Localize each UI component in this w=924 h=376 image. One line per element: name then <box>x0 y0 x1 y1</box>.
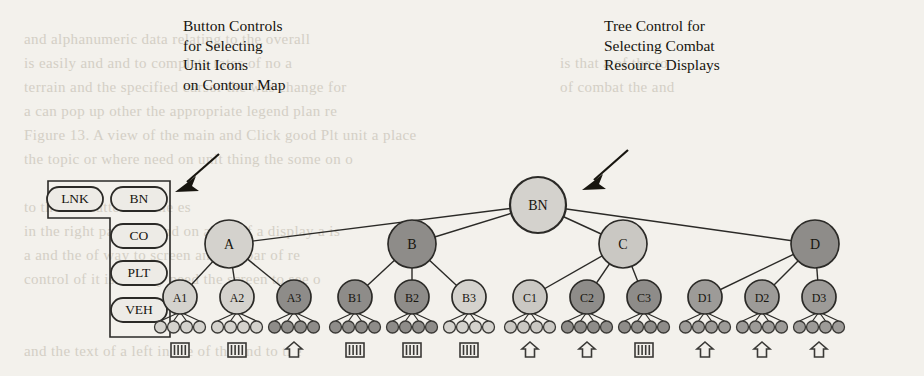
tree-node-d2[interactable]: D2 <box>745 280 779 314</box>
leaf-node[interactable] <box>776 321 788 333</box>
leaf-node[interactable] <box>168 321 180 333</box>
leaf-node[interactable] <box>356 321 368 333</box>
leaf-node[interactable] <box>308 321 320 333</box>
tank-icon[interactable] <box>228 343 246 357</box>
leaf-node[interactable] <box>194 321 206 333</box>
arrow-up-icon[interactable] <box>754 342 770 357</box>
leaf-node[interactable] <box>155 321 167 333</box>
leaf-node[interactable] <box>531 321 543 333</box>
leaf-node[interactable] <box>369 321 381 333</box>
tree-node-c3[interactable]: C3 <box>627 280 661 314</box>
tree-node-bn[interactable]: BN <box>510 177 566 233</box>
tank-icon[interactable] <box>346 343 364 357</box>
tree-node-d3[interactable]: D3 <box>802 280 836 314</box>
leaf-node[interactable] <box>658 321 670 333</box>
arrow-up-icon[interactable] <box>522 342 538 357</box>
unit-button-veh[interactable]: VEH <box>111 298 167 322</box>
leaf-node[interactable] <box>632 321 644 333</box>
node-label: A2 <box>230 291 245 305</box>
leaf-node[interactable] <box>238 321 250 333</box>
tree-node-d[interactable]: D <box>791 220 839 268</box>
leaf-node[interactable] <box>518 321 530 333</box>
leaf-node[interactable] <box>763 321 775 333</box>
leaf-node[interactable] <box>601 321 613 333</box>
leaf-node[interactable] <box>719 321 731 333</box>
leaf-node[interactable] <box>343 321 355 333</box>
leaf-node[interactable] <box>737 321 749 333</box>
leaf-node[interactable] <box>807 321 819 333</box>
tree-node-c2[interactable]: C2 <box>570 280 604 314</box>
arrow-up-icon[interactable] <box>811 342 827 357</box>
leaf-node[interactable] <box>295 321 307 333</box>
leaf-node[interactable] <box>269 321 281 333</box>
node-label: B1 <box>348 291 362 305</box>
leaf-node[interactable] <box>680 321 692 333</box>
leaf-node[interactable] <box>619 321 631 333</box>
tree-node-d1[interactable]: D1 <box>688 280 722 314</box>
node-label: D <box>810 237 820 252</box>
annotation-arrow-right <box>582 150 628 190</box>
arrow-up-icon-shape <box>286 342 302 357</box>
tree-node-a1[interactable]: A1 <box>163 280 197 314</box>
button-label: VEH <box>125 302 153 317</box>
node-label: A <box>224 237 235 252</box>
arrow-up-icon-shape <box>522 342 538 357</box>
leaf-node[interactable] <box>575 321 587 333</box>
leaf-node[interactable] <box>330 321 342 333</box>
leaf-node[interactable] <box>794 321 806 333</box>
node-label: C1 <box>523 291 537 305</box>
leaf-node[interactable] <box>470 321 482 333</box>
leaf-node[interactable] <box>562 321 574 333</box>
node-label: B2 <box>405 291 419 305</box>
leaf-node[interactable] <box>400 321 412 333</box>
leaf-node[interactable] <box>282 321 294 333</box>
leaf-node[interactable] <box>833 321 845 333</box>
arrow-up-icon-shape <box>697 342 713 357</box>
leaf-node[interactable] <box>645 321 657 333</box>
tree-node-c1[interactable]: C1 <box>513 280 547 314</box>
leaf-node[interactable] <box>444 321 456 333</box>
leaf-node[interactable] <box>544 321 556 333</box>
leaf-stems <box>161 312 839 321</box>
tree-node-b[interactable]: B <box>388 220 436 268</box>
leaf-node[interactable] <box>251 321 263 333</box>
leaf-node[interactable] <box>212 321 224 333</box>
leaf-node[interactable] <box>457 321 469 333</box>
tree-node-a2[interactable]: A2 <box>220 280 254 314</box>
arrow-up-icon-shape <box>811 342 827 357</box>
leaf-node[interactable] <box>483 321 495 333</box>
tank-icon[interactable] <box>403 343 421 357</box>
leaf-node[interactable] <box>820 321 832 333</box>
unit-button-bn[interactable]: BN <box>111 187 167 211</box>
tank-icon[interactable] <box>171 343 189 357</box>
tank-icon[interactable] <box>635 343 653 357</box>
tree-node-c[interactable]: C <box>599 220 647 268</box>
leaf-node[interactable] <box>387 321 399 333</box>
tree-node-b2[interactable]: B2 <box>395 280 429 314</box>
tree-node-b3[interactable]: B3 <box>452 280 486 314</box>
unit-button-plt[interactable]: PLT <box>111 261 167 285</box>
leaf-node[interactable] <box>750 321 762 333</box>
leaf-node[interactable] <box>706 321 718 333</box>
arrow-up-icon[interactable] <box>286 342 302 357</box>
arrow-up-icon-shape <box>579 342 595 357</box>
unit-icon-row <box>171 342 827 357</box>
leaf-node[interactable] <box>588 321 600 333</box>
leaf-node[interactable] <box>426 321 438 333</box>
leaf-node[interactable] <box>225 321 237 333</box>
tank-icon[interactable] <box>460 343 478 357</box>
leaf-node[interactable] <box>693 321 705 333</box>
arrow-up-icon[interactable] <box>697 342 713 357</box>
unit-button-lnk[interactable]: LNK <box>47 187 103 211</box>
leaf-node[interactable] <box>181 321 193 333</box>
leaf-node[interactable] <box>413 321 425 333</box>
leaf-node[interactable] <box>505 321 517 333</box>
arrow-up-icon-shape <box>754 342 770 357</box>
node-label: B <box>407 237 416 252</box>
node-label: C3 <box>637 291 651 305</box>
unit-button-co[interactable]: CO <box>111 224 167 248</box>
tree-node-a[interactable]: A <box>205 220 253 268</box>
tree-node-b1[interactable]: B1 <box>338 280 372 314</box>
arrow-up-icon[interactable] <box>579 342 595 357</box>
tree-node-a3[interactable]: A3 <box>277 280 311 314</box>
